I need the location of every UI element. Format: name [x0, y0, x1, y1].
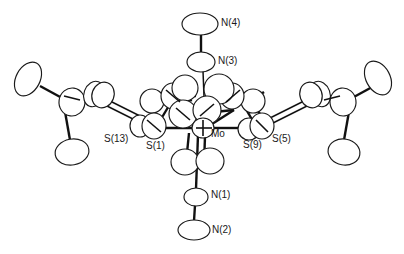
atom-label-s1: S(1) [146, 141, 165, 151]
bond-n1-n2 [194, 205, 195, 221]
ellipsoid-right-terminal-lower [326, 136, 362, 167]
ortep-structure-figure: N(4) N(3) N(1) N(2) Mo S(1) S(13) S(9) S… [0, 0, 404, 254]
ellipsoid-right-arm-center [328, 86, 358, 117]
atom-label-n3: N(3) [218, 56, 237, 66]
ellipsoid-n3 [187, 52, 215, 72]
atom-label-s5: S(5) [272, 134, 291, 144]
ellipsoid-right-terminal-upper [359, 56, 397, 99]
atom-label-n1: N(1) [211, 190, 230, 200]
ellipsoid-left-terminal-upper [9, 57, 47, 100]
atom-label-n2: N(2) [212, 225, 231, 235]
atom-label-mo: Mo [211, 129, 225, 139]
ellipsoid-core-lower-right [196, 148, 224, 174]
ellipsoid-n2 [178, 220, 210, 240]
ellipsoid-left-terminal-lower [53, 136, 91, 168]
ellipsoid-core-right-1 [241, 89, 265, 113]
ellipsoid-core-lower-left [171, 149, 199, 175]
atom-label-s13: S(13) [104, 134, 128, 144]
ellipsoid-left-arm-center [57, 86, 87, 117]
ellipsoid-n4 [182, 13, 218, 35]
atom-label-n4: N(4) [221, 18, 240, 28]
molecule-drawing [0, 0, 404, 254]
bond-arm-left-up [40, 86, 62, 98]
ellipsoid-core-left-1 [140, 89, 164, 113]
ellipsoid-n1 [184, 188, 208, 206]
atom-label-s9: S(9) [243, 140, 262, 150]
ellipsoid-core-left-3 [172, 75, 198, 101]
